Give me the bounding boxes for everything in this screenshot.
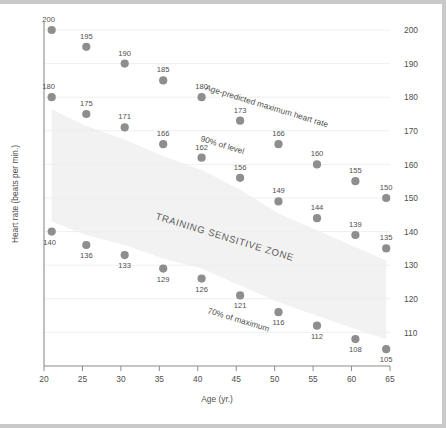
x-axis-ticks bbox=[44, 366, 390, 371]
data-point-label: 144 bbox=[311, 203, 324, 212]
data-point-label: 190 bbox=[118, 49, 131, 58]
data-point[interactable] bbox=[236, 291, 244, 299]
data-point[interactable] bbox=[198, 93, 206, 101]
x-axis-tick-label: 45 bbox=[232, 374, 242, 384]
data-point-label: 136 bbox=[80, 251, 93, 260]
data-point[interactable] bbox=[313, 160, 321, 168]
annotation-90-percent-level: 90% of level bbox=[199, 133, 245, 156]
y-axis-tick-label: 110 bbox=[404, 328, 418, 338]
data-point-label: 105 bbox=[380, 355, 393, 364]
data-point[interactable] bbox=[313, 322, 321, 330]
data-point-label: 171 bbox=[118, 112, 131, 121]
data-point[interactable] bbox=[82, 241, 90, 249]
x-axis-title: Age (yr.) bbox=[201, 394, 233, 404]
data-point[interactable] bbox=[198, 275, 206, 283]
data-point[interactable] bbox=[48, 228, 56, 236]
data-point-label: 149 bbox=[272, 186, 285, 195]
data-point[interactable] bbox=[159, 265, 167, 273]
data-point[interactable] bbox=[82, 43, 90, 51]
y-axis-tick-label: 200 bbox=[404, 25, 418, 35]
data-point-label: 155 bbox=[349, 166, 362, 175]
data-point-label: 175 bbox=[80, 99, 93, 108]
data-point-label: 126 bbox=[195, 285, 208, 294]
data-point[interactable] bbox=[274, 197, 282, 205]
x-axis-tick-label: 60 bbox=[347, 374, 357, 384]
data-point-label: 185 bbox=[157, 65, 170, 74]
data-point[interactable] bbox=[382, 345, 390, 353]
data-point[interactable] bbox=[48, 26, 56, 34]
data-point[interactable] bbox=[351, 335, 359, 343]
data-point-label: 150 bbox=[380, 183, 393, 192]
x-axis-tick-label: 55 bbox=[308, 374, 318, 384]
data-point-label: 173 bbox=[234, 106, 247, 115]
data-point[interactable] bbox=[121, 123, 129, 131]
x-axis-tick-label: 50 bbox=[270, 374, 280, 384]
x-axis-tick-label: 25 bbox=[78, 374, 88, 384]
y-axis-tick-label: 130 bbox=[404, 260, 418, 270]
data-point-label: 108 bbox=[349, 345, 362, 354]
y-axis-right-tick-labels: 110120130140150160170180190200 bbox=[404, 25, 418, 337]
y-axis-tick-label: 140 bbox=[404, 227, 418, 237]
data-point-label: 195 bbox=[80, 32, 93, 41]
data-point-label: 156 bbox=[234, 163, 247, 172]
data-point[interactable] bbox=[48, 93, 56, 101]
data-point-label: 135 bbox=[380, 233, 393, 242]
x-axis-tick-label: 35 bbox=[155, 374, 165, 384]
y-axis-tick-label: 120 bbox=[404, 294, 418, 304]
data-point[interactable] bbox=[382, 194, 390, 202]
data-point[interactable] bbox=[351, 177, 359, 185]
data-point[interactable] bbox=[274, 308, 282, 316]
y-axis-tick-label: 160 bbox=[404, 160, 418, 170]
data-point-label: 200 bbox=[42, 15, 55, 24]
data-point[interactable] bbox=[274, 140, 282, 148]
chart-container: 20253035404550556065 1101201301401501601… bbox=[0, 0, 446, 428]
data-point-label: 166 bbox=[272, 129, 285, 138]
data-point[interactable] bbox=[159, 76, 167, 84]
data-point[interactable] bbox=[236, 174, 244, 182]
y-axis-tick-label: 150 bbox=[404, 193, 418, 203]
data-point[interactable] bbox=[351, 231, 359, 239]
x-axis-tick-label: 40 bbox=[193, 374, 203, 384]
data-point-label: 121 bbox=[234, 301, 247, 310]
data-point-label: 129 bbox=[157, 275, 170, 284]
scatter-plot: 20253035404550556065 1101201301401501601… bbox=[0, 0, 446, 428]
x-axis-tick-label: 30 bbox=[116, 374, 126, 384]
y-axis-tick-label: 180 bbox=[404, 92, 418, 102]
x-axis-tick-label: 20 bbox=[39, 374, 49, 384]
data-point[interactable] bbox=[236, 117, 244, 125]
y-axis-tick-label: 190 bbox=[404, 59, 418, 69]
data-point-label: 112 bbox=[311, 332, 323, 341]
data-point-label: 160 bbox=[311, 149, 324, 158]
x-axis-tick-labels: 20253035404550556065 bbox=[39, 374, 395, 384]
data-point[interactable] bbox=[121, 251, 129, 259]
data-point-label: 133 bbox=[118, 261, 131, 270]
data-point[interactable] bbox=[121, 60, 129, 68]
annotation-age-predicted-max-hr: Age-predicted maximum heart rate bbox=[204, 82, 329, 129]
data-point-label: 139 bbox=[349, 220, 362, 229]
data-point[interactable] bbox=[198, 154, 206, 162]
data-point-label: 140 bbox=[43, 238, 56, 247]
y-axis-title: Heart rate (beats per min.) bbox=[10, 145, 20, 243]
data-point[interactable] bbox=[82, 110, 90, 118]
x-axis-tick-label: 65 bbox=[385, 374, 395, 384]
data-point[interactable] bbox=[313, 214, 321, 222]
data-point-label: 180 bbox=[42, 82, 55, 91]
data-point-label: 166 bbox=[157, 129, 170, 138]
y-axis-tick-label: 170 bbox=[404, 126, 418, 136]
data-point[interactable] bbox=[159, 140, 167, 148]
data-point[interactable] bbox=[382, 244, 390, 252]
chart-svg: 20253035404550556065 1101201301401501601… bbox=[0, 0, 446, 428]
data-point-label: 116 bbox=[272, 318, 284, 327]
